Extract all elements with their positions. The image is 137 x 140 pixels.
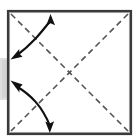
diagram-canvas xyxy=(0,0,137,140)
drop-shadow-inner xyxy=(2,60,7,98)
origami-diagram xyxy=(0,0,137,140)
